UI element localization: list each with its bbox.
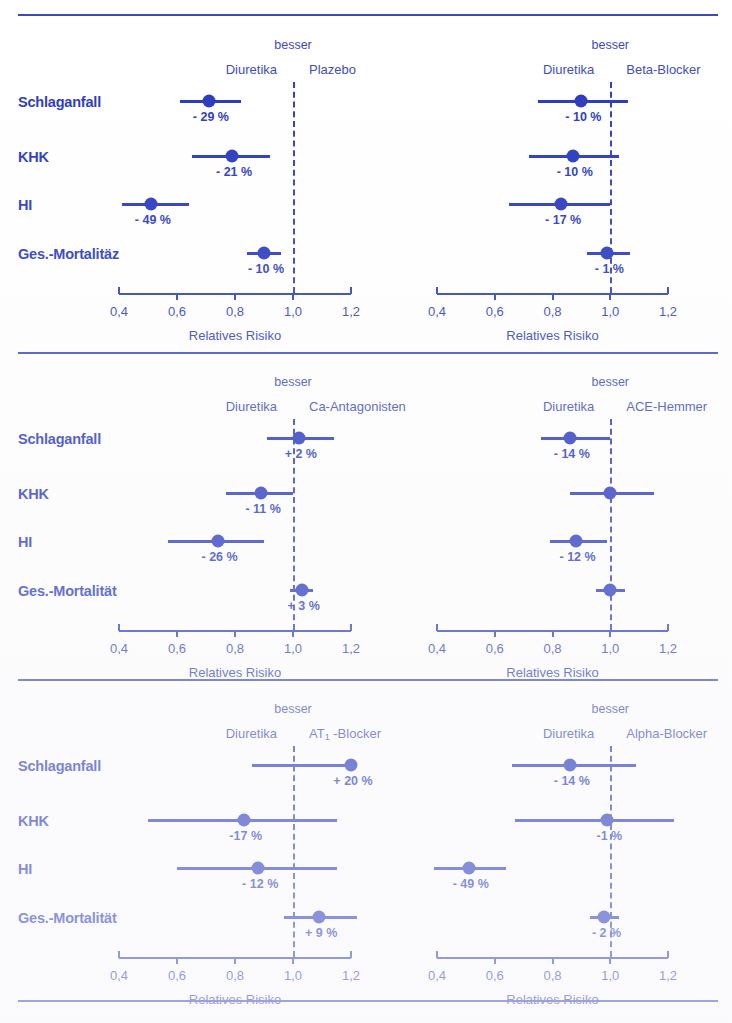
point-estimate-marker bbox=[569, 535, 582, 548]
x-axis-tick-label: 1,2 bbox=[659, 641, 677, 656]
effect-size-label: - 17 % bbox=[545, 213, 581, 227]
reference-arm-label: Diuretika bbox=[543, 726, 594, 741]
x-axis-tick-label: 0,4 bbox=[428, 968, 446, 983]
effect-size-label: - 2 % bbox=[592, 926, 621, 940]
x-axis-tick bbox=[552, 630, 554, 637]
point-estimate-marker bbox=[598, 911, 611, 924]
effect-size-label: - 14 % bbox=[554, 447, 590, 461]
panel-alpha-blocker: besserDiuretikaAlpha-Blocker- 14 %-1 %- … bbox=[0, 686, 732, 1006]
panel-ace-hemmer: besserDiuretikaACE-Hemmer- 14 %- 12 %0,4… bbox=[0, 359, 732, 679]
effect-size-label: - 10 % bbox=[557, 165, 593, 179]
separator-band-1 bbox=[18, 352, 718, 354]
x-axis-tick-label: 0,8 bbox=[543, 641, 561, 656]
comparator-arm-label: Beta-Blocker bbox=[626, 62, 700, 77]
effect-size-label: - 12 % bbox=[560, 550, 596, 564]
x-axis-tick-label: 0,8 bbox=[543, 968, 561, 983]
comparator-name: Beta-Blocker bbox=[626, 62, 700, 77]
separator-top bbox=[18, 14, 718, 16]
point-estimate-marker bbox=[555, 198, 568, 211]
x-axis-tick-label: 1,0 bbox=[601, 304, 619, 319]
x-axis-tick-label: 1,0 bbox=[601, 968, 619, 983]
x-axis-tick bbox=[494, 630, 496, 637]
comparator-name: Alpha-Blocker bbox=[626, 726, 707, 741]
point-estimate-marker bbox=[563, 432, 576, 445]
reference-arm-label: Diuretika bbox=[543, 399, 594, 414]
x-axis-tick bbox=[436, 951, 438, 958]
x-axis-title: Relatives Risiko bbox=[506, 992, 598, 1007]
point-estimate-marker bbox=[604, 584, 617, 597]
comparator-arm-label: ACE-Hemmer bbox=[626, 399, 707, 414]
x-axis-tick bbox=[609, 630, 611, 637]
separator-band-2 bbox=[18, 679, 718, 681]
effect-size-label: - 49 % bbox=[453, 877, 489, 891]
x-axis-tick bbox=[494, 957, 496, 964]
x-axis-title: Relatives Risiko bbox=[506, 665, 598, 680]
x-axis-tick-label: 0,6 bbox=[486, 304, 504, 319]
confidence-interval-line bbox=[515, 819, 674, 822]
besser-label: besser bbox=[591, 702, 629, 716]
x-axis-tick bbox=[667, 951, 669, 958]
x-axis-title: Relatives Risiko bbox=[506, 328, 598, 343]
x-axis-tick bbox=[552, 957, 554, 964]
point-estimate-marker bbox=[566, 150, 579, 163]
x-axis-tick-label: 0,6 bbox=[486, 968, 504, 983]
effect-size-label: - 1 % bbox=[595, 262, 624, 276]
figure-sheet: besserDiuretikaPlazeboSchlaganfall- 29 %… bbox=[0, 0, 732, 1023]
x-axis-tick bbox=[436, 624, 438, 631]
x-axis-tick-label: 1,2 bbox=[659, 304, 677, 319]
reference-arm-label: Diuretika bbox=[543, 62, 594, 77]
x-axis-tick bbox=[552, 293, 554, 300]
x-axis-tick bbox=[494, 293, 496, 300]
effect-size-label: -1 % bbox=[597, 829, 623, 843]
effect-size-label: - 14 % bbox=[554, 774, 590, 788]
point-estimate-marker bbox=[563, 759, 576, 772]
x-axis-tick bbox=[436, 287, 438, 294]
x-axis-tick-label: 1,0 bbox=[601, 641, 619, 656]
point-estimate-marker bbox=[601, 814, 614, 827]
x-axis-tick-label: 0,4 bbox=[428, 304, 446, 319]
x-axis-tick bbox=[667, 287, 669, 294]
x-axis-tick-label: 1,2 bbox=[659, 968, 677, 983]
panel-beta-blocker: besserDiuretikaBeta-Blocker- 10 %- 10 %-… bbox=[0, 22, 732, 342]
besser-label: besser bbox=[591, 38, 629, 52]
x-axis-tick bbox=[609, 293, 611, 300]
comparator-name: ACE-Hemmer bbox=[626, 399, 707, 414]
x-axis-tick-label: 0,8 bbox=[543, 304, 561, 319]
point-estimate-marker bbox=[604, 487, 617, 500]
effect-size-label: - 10 % bbox=[565, 110, 601, 124]
reference-line bbox=[610, 419, 612, 630]
point-estimate-marker bbox=[601, 247, 614, 260]
x-axis-tick-label: 0,4 bbox=[428, 641, 446, 656]
x-axis-tick-label: 0,6 bbox=[486, 641, 504, 656]
x-axis-tick bbox=[667, 624, 669, 631]
besser-label: besser bbox=[591, 375, 629, 389]
comparator-arm-label: Alpha-Blocker bbox=[626, 726, 707, 741]
point-estimate-marker bbox=[575, 95, 588, 108]
point-estimate-marker bbox=[462, 862, 475, 875]
x-axis-tick bbox=[609, 957, 611, 964]
